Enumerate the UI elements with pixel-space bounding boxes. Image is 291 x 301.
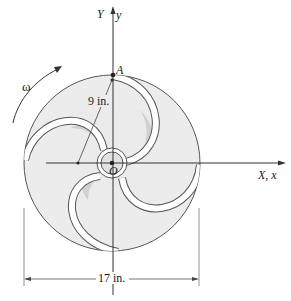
y-axis-lower-label: y [116,9,121,21]
x-axis-label: X, x [258,169,277,181]
point-A-label: A [116,64,123,76]
impeller-diagram [0,0,291,301]
omega-arrowhead [54,66,62,73]
radius-start-point [77,162,80,165]
radius-label: 9 in. [88,95,109,107]
diameter-label: 17 in. [98,272,125,284]
dimension-arrow-left [24,277,31,281]
omega-label: ω [22,80,31,93]
y-axis-upper-label: Y [97,8,104,20]
dimension-arrow-right [192,277,199,281]
y-axis-arrowhead [111,6,116,14]
x-axis-arrowhead [278,161,286,166]
point-A [111,73,116,78]
center-O-label: O [109,165,118,177]
